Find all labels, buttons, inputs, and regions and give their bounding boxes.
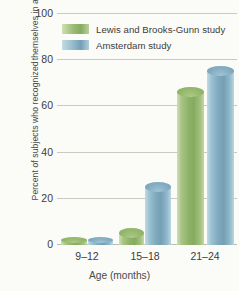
bar-cap xyxy=(119,228,144,238)
bar-lewis-15-18 xyxy=(119,233,144,245)
y-tick-label-80: 80 xyxy=(13,53,53,65)
legend-label-lewis: Lewis and Brooks-Gunn study xyxy=(96,24,225,35)
y-tick-label-20: 20 xyxy=(13,192,53,204)
bar-amsterdam-21-24 xyxy=(207,71,234,245)
y-tick-label-100: 100 xyxy=(13,7,53,19)
x-tick-label-15-18: 15–18 xyxy=(130,250,159,262)
x-tick-label-9-12: 9–12 xyxy=(75,250,98,262)
gridline-100 xyxy=(57,13,237,14)
legend-swatch-green-icon xyxy=(62,24,89,34)
bar-amsterdam-15-18 xyxy=(145,187,171,245)
bar-body xyxy=(145,187,171,245)
y-axis-title-line-1: Percent of subjects who recognized xyxy=(30,61,40,200)
bar-cap xyxy=(61,237,87,243)
y-tick-label-40: 40 xyxy=(13,146,53,158)
legend-label-amsterdam: Amsterdam study xyxy=(96,40,171,51)
legend-item-amsterdam: Amsterdam study xyxy=(62,38,225,52)
bar-cap xyxy=(88,237,113,243)
legend: Lewis and Brooks-Gunn study Amsterdam st… xyxy=(62,22,225,54)
bar-lewis-21-24 xyxy=(177,92,204,245)
y-tick-label-60: 60 xyxy=(13,99,53,111)
x-tick-label-21-24: 21–24 xyxy=(190,250,219,262)
bar-cap xyxy=(145,182,171,192)
bar-cap xyxy=(177,87,204,97)
bar-chart: Percent of subjects who recognized thems… xyxy=(0,0,239,291)
bar-body xyxy=(207,71,234,245)
legend-swatch-blue-icon xyxy=(62,40,89,50)
bar-amsterdam-9-12 xyxy=(88,240,113,245)
bar-lewis-9-12 xyxy=(61,240,87,245)
x-axis-title: Age (months) xyxy=(0,270,239,281)
legend-item-lewis: Lewis and Brooks-Gunn study xyxy=(62,22,225,36)
bar-cap xyxy=(207,66,234,76)
y-tick-label-0: 0 xyxy=(13,238,53,250)
gridline-80 xyxy=(57,59,237,60)
bar-body xyxy=(177,92,204,245)
